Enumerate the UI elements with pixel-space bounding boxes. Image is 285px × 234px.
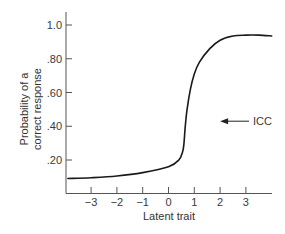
y-axis-title: Probability of a correct response (18, 68, 43, 150)
x-tick-label: −1 (136, 196, 149, 208)
x-tick-label: −3 (85, 196, 98, 208)
y-tick-label: .80 (47, 53, 62, 65)
x-tick-label: −2 (111, 196, 124, 208)
x-tick-label: 2 (217, 196, 223, 208)
svg-text:Probability of a: Probability of a (18, 72, 30, 146)
icc-chart: .20.40.60.801.0 −3−2−10123 ICC Latent tr… (0, 0, 285, 234)
y-tick-label: 1.0 (47, 19, 62, 31)
svg-text:correct response: correct response (31, 68, 43, 150)
y-tick-label: .40 (47, 120, 62, 132)
y-tick-label: .20 (47, 154, 62, 166)
y-tick-label: .60 (47, 87, 62, 99)
icc-curve (68, 35, 272, 179)
icc-label: ICC (253, 115, 272, 127)
x-tick-label: 1 (191, 196, 197, 208)
x-tick-label: 0 (165, 196, 171, 208)
y-ticks: .20.40.60.801.0 (47, 19, 72, 166)
arrow-head-icon (220, 118, 228, 124)
x-ticks: −3−2−10123 (85, 187, 249, 208)
x-tick-label: 3 (243, 196, 249, 208)
icc-annotation: ICC (220, 115, 272, 127)
x-axis-title: Latent trait (143, 210, 195, 222)
